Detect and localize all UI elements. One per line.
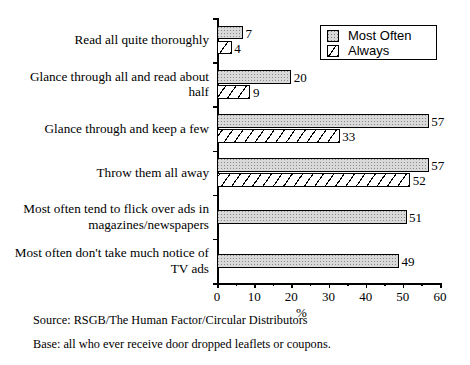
bar-most-often [217, 114, 429, 128]
x-axis-minor-tick [421, 283, 423, 286]
category-axis-labels: Read all quite thoroughly Glance through… [0, 0, 213, 300]
y-axis-tick [213, 195, 217, 197]
y-axis-tick [213, 106, 217, 108]
bar-value-label: 57 [431, 115, 444, 128]
x-axis-tick-label: 40 [351, 290, 381, 304]
x-axis-minor-tick [384, 283, 386, 286]
x-axis-tick [254, 283, 256, 288]
bar-most-often [217, 158, 429, 172]
x-axis-tick [329, 283, 331, 288]
bar-value-label: 51 [409, 211, 422, 224]
bar-most-often [217, 254, 399, 268]
bar-always [217, 173, 410, 187]
bar-most-often [217, 70, 291, 84]
dotted-gray-swatch-icon [327, 30, 339, 42]
source-note: Source: RSGB/The Human Factor/Circular D… [33, 313, 308, 327]
category-label: Glance through all and read about half [0, 69, 213, 100]
bar-most-often [217, 26, 243, 40]
bar-value-label: 7 [246, 27, 253, 40]
bar-value-label: 9 [253, 86, 260, 99]
x-axis-tick-label: 20 [276, 290, 306, 304]
x-axis-tick-label: 10 [239, 290, 269, 304]
x-axis-minor-tick [236, 283, 238, 286]
y-axis-line [217, 18, 219, 283]
category-label: Glance through and keep a few [0, 121, 213, 137]
y-axis-tick [213, 18, 217, 20]
bar-value-label: 57 [431, 159, 444, 172]
y-axis-tick [213, 62, 217, 64]
legend-label: Most Often [348, 29, 412, 43]
x-axis-tick [366, 283, 368, 288]
y-axis-tick [213, 151, 217, 153]
x-axis-minor-tick [273, 283, 275, 286]
x-axis-tick-label: 30 [314, 290, 344, 304]
bar-value-label: 49 [402, 255, 415, 268]
legend-item-always: Always [327, 44, 389, 58]
y-axis-tick [213, 239, 217, 241]
category-label: Throw them all away [0, 165, 213, 181]
x-axis-tick [440, 283, 442, 288]
x-axis-tick-label: 60 [425, 290, 455, 304]
bar-value-label: 4 [234, 42, 241, 55]
bar-most-often [217, 210, 407, 224]
chart-figure: Read all quite thoroughly Glance through… [0, 0, 470, 365]
bar-always [217, 85, 250, 99]
x-axis-minor-tick [347, 283, 349, 286]
legend-item-most-often: Most Often [327, 29, 412, 43]
base-note: Base: all who ever receive door dropped … [33, 337, 331, 351]
category-label: Most often tend to flick over ads in mag… [0, 201, 213, 232]
bar-value-label: 52 [413, 174, 426, 187]
category-label: Read all quite thoroughly [0, 32, 213, 48]
category-label: Most often don't take much notice of TV … [0, 245, 213, 276]
x-axis-tick-label: 0 [202, 290, 232, 304]
bar-value-label: 20 [294, 71, 307, 84]
chart-legend: Most Often Always [320, 25, 437, 60]
legend-label: Always [348, 44, 389, 58]
x-axis-tick-label: 50 [388, 290, 418, 304]
x-axis-minor-tick [310, 283, 312, 286]
x-axis-tick [403, 283, 405, 288]
bar-value-label: 33 [342, 130, 355, 143]
bar-always [217, 41, 232, 55]
x-axis-tick [291, 283, 293, 288]
diagonal-hatch-swatch-icon [327, 45, 339, 57]
x-axis-tick [217, 283, 219, 288]
bar-always [217, 129, 340, 143]
